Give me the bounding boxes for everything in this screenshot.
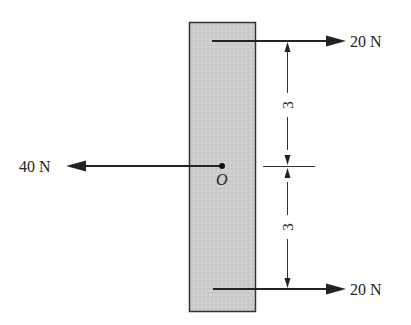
point-o-dot (219, 163, 225, 169)
dimension-label-upper: 3 (280, 101, 296, 109)
dimension-label-lower: 3 (280, 223, 296, 231)
diagram-canvas: 20 N 20 N 40 N O 3 3 (0, 0, 411, 325)
point-o-label: O (216, 171, 228, 188)
force-label-bottom: 20 N (350, 281, 382, 298)
force-label-left: 40 N (19, 158, 51, 175)
dimension-lines (263, 48, 315, 282)
force-label-top: 20 N (350, 33, 382, 50)
